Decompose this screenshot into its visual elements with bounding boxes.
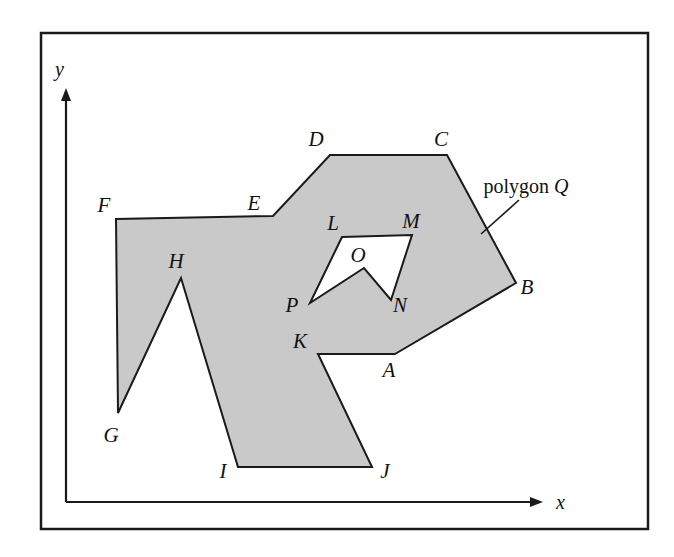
callout-symbol: Q — [554, 175, 569, 197]
vertex-label-b: B — [521, 275, 534, 299]
y-axis-label: y — [53, 58, 64, 81]
vertex-label-k: K — [292, 329, 308, 353]
vertex-label-f: F — [97, 193, 111, 217]
figure-container: x y polygon Q ABCDEFGHIJK LMNOP — [0, 0, 674, 557]
vertex-label-g: G — [103, 423, 118, 447]
hole-vertex-label-o: O — [350, 243, 365, 267]
callout-prefix: polygon — [483, 175, 554, 198]
polygon-figure: x y polygon Q ABCDEFGHIJK LMNOP — [0, 0, 674, 557]
hole-vertex-label-l: L — [326, 211, 339, 235]
x-axis-label: x — [555, 491, 565, 513]
callout-label: polygon Q — [483, 175, 569, 198]
vertex-label-i: I — [219, 459, 228, 483]
hole-vertex-label-m: M — [401, 209, 421, 233]
vertex-label-h: H — [167, 249, 185, 273]
vertex-label-d: D — [307, 127, 323, 151]
vertex-label-a: A — [381, 358, 396, 382]
figure-background — [0, 0, 674, 557]
vertex-label-c: C — [434, 127, 449, 151]
vertex-label-e: E — [247, 191, 261, 215]
hole-vertex-label-n: N — [392, 293, 408, 317]
hole-vertex-label-p: P — [285, 293, 299, 317]
